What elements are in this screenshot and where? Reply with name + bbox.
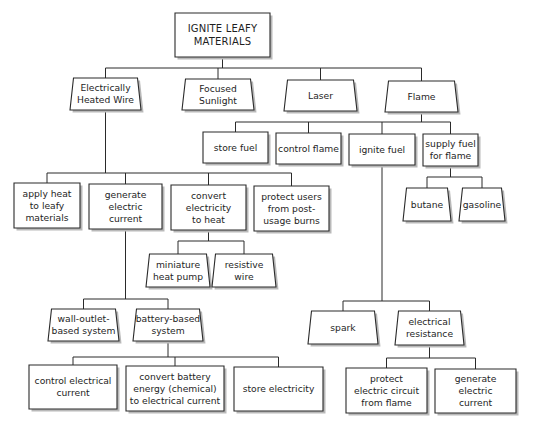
node-electrically-heated-wire xyxy=(70,78,144,113)
rect-box xyxy=(29,365,117,409)
rect-box xyxy=(423,134,478,166)
node-apply-heat xyxy=(14,183,83,231)
node-control-flame xyxy=(276,133,344,167)
diagram-canvas xyxy=(0,0,534,427)
node-focused-sunlight xyxy=(182,79,257,113)
trapezoid-box xyxy=(133,309,203,341)
node-miniature-heat-pump xyxy=(146,254,213,290)
node-spark xyxy=(308,311,381,347)
rect-box xyxy=(126,366,224,411)
node-shapes xyxy=(14,13,519,416)
trapezoid-box xyxy=(212,254,276,287)
trapezoid-box xyxy=(146,254,210,287)
rect-box xyxy=(175,13,270,57)
node-supply-fuel xyxy=(423,134,481,169)
rect-box xyxy=(435,369,516,413)
node-flame xyxy=(385,81,461,115)
node-gasoline xyxy=(459,188,508,224)
node-root xyxy=(175,13,273,60)
rect-box xyxy=(276,133,341,164)
rect-box xyxy=(234,367,323,411)
node-electrical-resistance xyxy=(395,311,467,348)
trapezoid-box xyxy=(70,78,141,110)
node-battery-based xyxy=(133,309,206,344)
rect-box xyxy=(203,132,268,163)
node-resistive-wire xyxy=(212,254,279,290)
rect-box xyxy=(171,185,246,230)
rect-box xyxy=(254,186,329,231)
node-protect-electric-circuit xyxy=(346,368,430,416)
trapezoid-box xyxy=(395,311,464,345)
rect-box xyxy=(14,183,80,228)
node-wall-outlet xyxy=(48,309,122,344)
trapezoid-box xyxy=(385,81,458,112)
node-convert-battery xyxy=(126,366,227,414)
node-laser xyxy=(284,80,360,114)
trapezoid-box xyxy=(308,311,378,344)
trapezoid-box xyxy=(459,188,505,221)
trapezoid-box xyxy=(182,79,254,110)
rect-box xyxy=(89,184,162,229)
node-store-electricity xyxy=(234,367,326,414)
node-convert-electricity xyxy=(171,185,249,233)
rect-box xyxy=(349,134,415,165)
trapezoid-box xyxy=(48,309,119,341)
node-generate-electric-current xyxy=(89,184,165,232)
node-protect-users xyxy=(254,186,332,234)
rect-box xyxy=(346,368,427,413)
node-ignite-fuel xyxy=(349,134,418,168)
node-generate-electric-current-2 xyxy=(435,369,519,416)
trapezoid-box xyxy=(403,188,451,221)
node-control-electrical-current xyxy=(29,365,120,412)
trapezoid-box xyxy=(284,80,357,111)
node-butane xyxy=(403,188,454,224)
node-store-fuel xyxy=(203,132,271,166)
